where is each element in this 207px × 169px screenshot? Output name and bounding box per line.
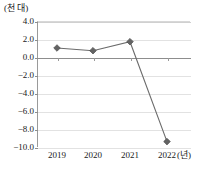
y-axis-label-0: 0.0 <box>0 53 34 62</box>
x-tick-2021 <box>131 58 132 61</box>
y-axis-label-minus-8: −8.0 <box>0 125 34 134</box>
x-axis-label-2021: 2021 <box>121 150 139 160</box>
gridline-minus-10 <box>38 148 191 149</box>
y-tick-minus-2 <box>35 76 38 77</box>
gridline-minus-8 <box>38 130 191 131</box>
y-tick-0 <box>35 58 38 59</box>
y-axis-label-minus-2: −2.0 <box>0 71 34 80</box>
y-axis-label-4: 4.0 <box>0 17 34 26</box>
x-axis-label-2022: 2022 <box>158 150 176 160</box>
gridline-minus-4 <box>38 94 191 95</box>
y-tick-minus-4 <box>35 94 38 95</box>
x-axis-label-2020: 2020 <box>84 150 102 160</box>
y-axis-label-minus-6: −6.0 <box>0 107 34 116</box>
gridline-minus-2 <box>38 76 191 77</box>
y-axis-label-2: 2.0 <box>0 35 34 44</box>
line-chart: (천 대) 4.0 2.0 0.0 −2.0 −4.0 −6.0 −8.0 −1… <box>0 0 207 169</box>
y-tick-4 <box>35 22 38 23</box>
x-tick-2019 <box>58 58 59 61</box>
gridline-2 <box>38 40 191 41</box>
y-tick-2 <box>35 40 38 41</box>
x-axis-unit-label: (년) <box>177 150 191 160</box>
gridline-minus-6 <box>38 112 191 113</box>
plot-area <box>37 21 190 147</box>
gridline-4 <box>38 22 191 23</box>
y-axis-label-minus-4: −4.0 <box>0 89 34 98</box>
x-tick-2020 <box>94 58 95 61</box>
y-tick-minus-8 <box>35 130 38 131</box>
x-axis-labels: 2019 2020 2021 2022 <box>0 150 207 164</box>
y-tick-minus-6 <box>35 112 38 113</box>
y-axis-labels: 4.0 2.0 0.0 −2.0 −4.0 −6.0 −8.0 −10.0 <box>0 21 34 147</box>
x-tick-2022 <box>168 58 169 61</box>
y-tick-minus-10 <box>35 148 38 149</box>
y-axis-unit-label: (천 대) <box>4 3 28 14</box>
x-axis-label-2019: 2019 <box>48 150 66 160</box>
